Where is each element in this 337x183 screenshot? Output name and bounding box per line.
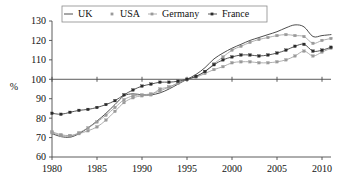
y-axis-title: % <box>10 81 18 92</box>
data-point-marker <box>105 114 108 117</box>
data-point-marker <box>285 49 288 52</box>
data-point-marker <box>114 106 117 109</box>
data-point-marker <box>240 45 243 48</box>
data-point-marker <box>294 55 297 58</box>
y-tick-label: 90 <box>36 93 46 104</box>
y-tick-label: 80 <box>36 113 46 124</box>
x-tick-label: 1980 <box>42 163 62 174</box>
data-point-marker <box>168 86 171 89</box>
data-point-marker <box>141 85 144 88</box>
data-point-marker <box>132 89 135 92</box>
x-tick-label: 1995 <box>177 163 197 174</box>
data-point-marker <box>330 46 333 49</box>
data-point-marker <box>96 126 99 129</box>
legend-label: UK <box>78 8 93 19</box>
y-tick-label: 120 <box>31 35 46 46</box>
data-point-marker <box>213 63 216 66</box>
legend-label: USA <box>120 8 141 19</box>
data-point-marker <box>78 131 81 134</box>
data-point-marker <box>249 54 252 57</box>
data-point-marker <box>150 83 153 86</box>
y-tick-label: 110 <box>31 54 46 65</box>
data-point-marker <box>60 113 63 116</box>
data-point-marker <box>231 61 234 64</box>
data-point-marker <box>159 81 162 84</box>
data-point-marker <box>267 54 270 57</box>
data-point-marker <box>321 49 324 52</box>
data-point-marker <box>114 99 117 102</box>
data-point-marker <box>96 106 99 109</box>
data-point-marker <box>231 49 234 52</box>
data-point-marker <box>69 135 72 138</box>
data-point-marker <box>114 110 117 113</box>
legend-item-uk[interactable]: UK <box>64 8 93 19</box>
x-tick-label: 2010 <box>312 163 332 174</box>
data-point-marker <box>87 108 90 111</box>
legend-item-germany[interactable]: Germany <box>148 8 199 19</box>
y-tick-label: 100 <box>31 74 46 85</box>
data-point-marker <box>105 119 108 122</box>
data-point-marker <box>303 43 306 46</box>
data-point-marker <box>276 52 279 55</box>
data-point-marker <box>285 33 288 36</box>
data-point-marker <box>276 61 279 64</box>
data-point-marker <box>276 34 279 37</box>
data-point-marker <box>258 38 261 41</box>
data-point-marker <box>123 98 126 101</box>
chart-canvas: 60708090100110120130%1980198519901995200… <box>0 0 337 183</box>
x-tick-label: 2005 <box>267 163 287 174</box>
data-point-marker <box>141 94 144 97</box>
data-point-marker <box>267 36 270 39</box>
y-tick-label: 70 <box>36 132 46 143</box>
legend-item-usa[interactable]: USA <box>111 8 141 19</box>
legend-marker-swatch <box>211 13 214 16</box>
series-line <box>52 35 331 136</box>
data-point-marker <box>258 61 261 64</box>
legend-marker-swatch <box>151 13 154 16</box>
data-point-marker <box>177 80 180 83</box>
data-point-marker <box>258 55 261 58</box>
data-point-marker <box>123 101 126 104</box>
legend-item-france[interactable]: France <box>208 8 250 19</box>
x-tick-label: 1985 <box>87 163 107 174</box>
data-point-marker <box>87 127 90 130</box>
data-point-marker <box>303 35 306 38</box>
data-point-marker <box>312 55 315 58</box>
legend-label: France <box>222 8 250 19</box>
data-point-marker <box>60 134 63 137</box>
data-point-marker <box>249 61 252 64</box>
data-point-marker <box>150 93 153 96</box>
x-tick-label: 1990 <box>132 163 152 174</box>
data-point-marker <box>321 39 324 42</box>
data-point-marker <box>159 90 162 93</box>
data-point-marker <box>330 37 333 40</box>
data-point-marker <box>69 111 72 114</box>
data-point-marker <box>240 61 243 64</box>
series-line <box>52 25 331 138</box>
data-point-marker <box>96 121 99 124</box>
y-tick-label: 60 <box>36 151 46 162</box>
data-point-marker <box>294 34 297 37</box>
data-point-marker <box>294 45 297 48</box>
data-point-marker <box>168 81 171 84</box>
data-point-marker <box>231 56 234 59</box>
data-point-marker <box>285 59 288 62</box>
data-point-marker <box>267 61 270 64</box>
data-point-marker <box>240 54 243 57</box>
data-point-marker <box>312 42 315 45</box>
line-chart: 60708090100110120130%1980198519901995200… <box>0 0 337 183</box>
chart-legend: UKUSAGermanyFrance <box>62 6 267 22</box>
data-point-marker <box>105 103 108 106</box>
data-point-marker <box>51 112 54 115</box>
legend-marker-swatch <box>111 13 114 16</box>
data-point-marker <box>303 50 306 53</box>
data-point-marker <box>213 68 216 71</box>
data-point-marker <box>249 41 252 44</box>
data-point-marker <box>78 109 81 112</box>
y-tick-label: 130 <box>31 15 46 26</box>
data-point-marker <box>222 56 225 59</box>
series-usa <box>51 33 333 137</box>
legend-label: Germany <box>162 8 199 19</box>
data-point-marker <box>51 131 54 134</box>
data-point-marker <box>123 94 126 97</box>
